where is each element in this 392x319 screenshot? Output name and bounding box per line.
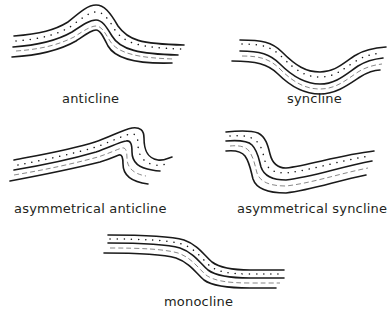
syncline-label: syncline — [287, 91, 342, 106]
asymmetrical-anticline-figure — [10, 128, 172, 184]
syncline-figure — [232, 40, 386, 94]
fold-diagram — [0, 0, 392, 319]
anticline-figure — [12, 5, 184, 63]
anticline-label: anticline — [62, 91, 119, 106]
monocline-label: monocline — [164, 294, 233, 309]
asymmetrical-anticline-label: asymmetrical anticline — [14, 201, 167, 216]
asymmetrical-syncline-label: asymmetrical syncline — [237, 201, 387, 216]
asymmetrical-syncline-figure — [226, 131, 374, 193]
monocline-figure — [104, 235, 284, 288]
